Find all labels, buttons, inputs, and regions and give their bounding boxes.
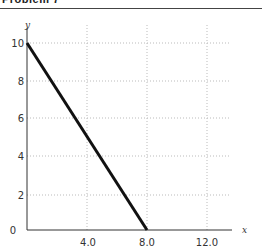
svg-text:6: 6 (18, 113, 24, 124)
y-ticks: 0 2 4 6 8 10 (10, 38, 24, 236)
svg-text:4: 4 (18, 151, 24, 162)
svg-text:12.0: 12.0 (196, 237, 218, 248)
svg-text:0: 0 (10, 225, 16, 236)
svg-text:2: 2 (18, 190, 24, 201)
data-line (27, 43, 147, 230)
svg-text:10: 10 (11, 38, 24, 49)
x-axis-label: x (242, 225, 247, 235)
x-ticks: 4.0 8.0 12.0 (80, 237, 218, 248)
y-axis-label: y (24, 20, 31, 30)
svg-text:4.0: 4.0 (80, 237, 96, 248)
svg-text:8: 8 (18, 76, 24, 87)
svg-text:8.0: 8.0 (139, 237, 155, 248)
axes (27, 28, 232, 230)
chart: 0 2 4 6 8 10 4.0 8.0 12.0 y x (0, 0, 262, 251)
